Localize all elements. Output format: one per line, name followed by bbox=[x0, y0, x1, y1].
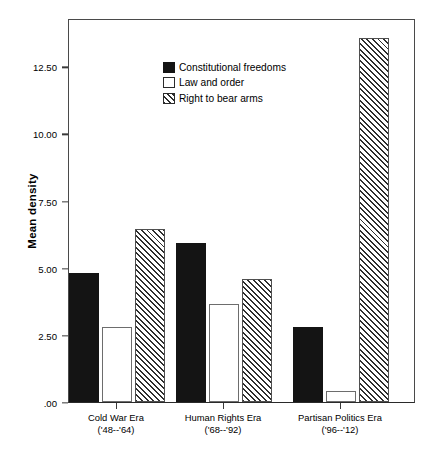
legend-swatch-open bbox=[163, 77, 175, 88]
y-axis-tick-label: .00 bbox=[44, 398, 57, 409]
x-axis-tick-mark bbox=[340, 403, 341, 409]
mean-density-bar-chart: Mean density 12.5010.007.505.002.50.00 C… bbox=[0, 0, 433, 453]
category-years: ('96--'12) bbox=[270, 424, 410, 436]
y-axis-tick-label: 7.50 bbox=[38, 196, 57, 207]
y-axis-tick-label: 2.50 bbox=[38, 330, 57, 341]
x-axis-tick-mark bbox=[223, 403, 224, 409]
bar bbox=[242, 279, 272, 402]
bar-group bbox=[293, 18, 389, 402]
legend-item: Law and order bbox=[163, 76, 286, 91]
x-axis-tick-mark bbox=[116, 403, 117, 409]
plot-area: Constitutional freedomsLaw and orderRigh… bbox=[68, 19, 415, 403]
category-name: Partisan Politics Era bbox=[298, 412, 382, 423]
x-axis-category-label: Partisan Politics Era('96--'12) bbox=[270, 412, 410, 435]
legend-label: Right to bear arms bbox=[179, 93, 263, 104]
legend-label: Law and order bbox=[179, 77, 244, 88]
legend-swatch-solid bbox=[163, 62, 175, 73]
chart-legend: Constitutional freedomsLaw and orderRigh… bbox=[163, 60, 286, 107]
y-axis-tick-label: 5.00 bbox=[38, 263, 57, 274]
category-name: Human Rights Era bbox=[185, 412, 262, 423]
bar-group bbox=[69, 18, 165, 402]
bar bbox=[209, 304, 239, 402]
y-axis-tick-label: 12.50 bbox=[33, 62, 57, 73]
bar bbox=[176, 243, 206, 402]
legend-swatch-hatch bbox=[163, 93, 175, 104]
bar bbox=[135, 229, 165, 402]
bar bbox=[359, 38, 389, 402]
y-axis-tick-label: 10.00 bbox=[33, 129, 57, 140]
legend-item: Right to bear arms bbox=[163, 91, 286, 106]
legend-label: Constitutional freedoms bbox=[179, 62, 286, 73]
legend-item: Constitutional freedoms bbox=[163, 60, 286, 75]
y-axis-title: Mean density bbox=[26, 151, 38, 271]
bar bbox=[326, 391, 356, 402]
bar bbox=[102, 327, 132, 402]
bar bbox=[293, 327, 323, 402]
bar bbox=[69, 273, 99, 402]
category-name: Cold War Era bbox=[88, 412, 144, 423]
